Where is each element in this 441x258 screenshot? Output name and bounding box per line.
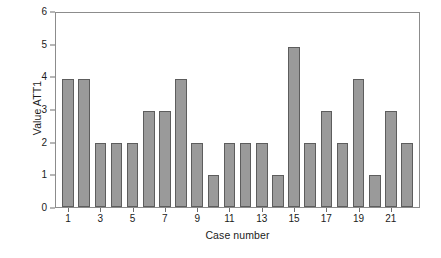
y-axis-tick-label: 1 [33,170,47,180]
bar[interactable] [208,175,220,207]
bar[interactable] [385,111,397,207]
bar-slot [189,13,205,207]
bar-slot [238,13,254,207]
bar[interactable] [401,143,413,207]
bar-slot [351,13,367,207]
bar[interactable] [353,79,365,207]
bar[interactable] [256,143,268,207]
x-axis-tick-mark [229,208,230,212]
bar-slot [302,13,318,207]
bar[interactable] [95,143,107,207]
bar[interactable] [321,111,333,207]
x-axis-tick-label: 21 [381,213,401,225]
x-axis-tick-mark [165,208,166,212]
x-axis-tick-label: 17 [316,213,336,225]
bar[interactable] [143,111,155,207]
bar[interactable] [127,143,139,207]
bar-slot [173,13,189,207]
x-axis-tick-mark [326,208,327,212]
bar-slot [286,13,302,207]
bar-slot [399,13,415,207]
bar-slot [221,13,237,207]
bar[interactable] [337,143,349,207]
y-axis-tick-label-group: 0123456 [33,12,47,208]
bar[interactable] [240,143,252,207]
y-axis-tick-label: 4 [33,72,47,82]
x-axis-tick-mark [262,208,263,212]
bar[interactable] [62,79,74,207]
bar[interactable] [369,175,381,207]
bar-slot [318,13,334,207]
bar-slot [254,13,270,207]
bar-series-group [56,13,419,207]
y-axis-tick-label: 0 [33,203,47,213]
y-axis-tick-label: 3 [33,105,47,115]
x-axis-tick-label: 19 [349,213,369,225]
bar-chart-figure: Value ATT1 0123456 13579111315171921 Cas… [0,0,441,258]
x-axis-tick-label: 13 [252,213,272,225]
x-axis-title: Case number [55,229,420,241]
bar-slot [125,13,141,207]
bar[interactable] [272,175,284,207]
x-axis-tick-label: 7 [155,213,175,225]
y-axis-tick-label: 5 [33,40,47,50]
x-axis-tick-label-group: 13579111315171921 [56,213,419,227]
bar-slot [383,13,399,207]
bar[interactable] [191,143,203,207]
x-axis-tick-mark [294,208,295,212]
x-axis-tick-mark [133,208,134,212]
bar-slot [108,13,124,207]
x-axis-tick-mark [197,208,198,212]
bar[interactable] [175,79,187,207]
bar-slot [60,13,76,207]
bar[interactable] [111,143,123,207]
bar-slot [141,13,157,207]
x-axis-tick-label: 11 [219,213,239,225]
bar[interactable] [288,47,300,207]
x-axis-tick-mark [68,208,69,212]
bar-slot [157,13,173,207]
x-axis-tick-mark [100,208,101,212]
x-axis-tick-mark [391,208,392,212]
x-axis-tick-label: 5 [123,213,143,225]
bar-slot [334,13,350,207]
bar-slot [367,13,383,207]
bar-slot [205,13,221,207]
bar[interactable] [78,79,90,207]
bar[interactable] [304,143,316,207]
x-axis-tick-label: 9 [187,213,207,225]
bar-slot [76,13,92,207]
bar[interactable] [224,143,236,207]
x-axis-tick-mark [359,208,360,212]
x-axis-tick-label: 15 [284,213,304,225]
bar-slot [270,13,286,207]
x-axis-tick-label: 1 [58,213,78,225]
y-axis-tick-label: 6 [33,7,47,17]
y-axis-tick-label: 2 [33,138,47,148]
bar-slot [92,13,108,207]
bar[interactable] [159,111,171,207]
x-axis-tick-label: 3 [90,213,110,225]
